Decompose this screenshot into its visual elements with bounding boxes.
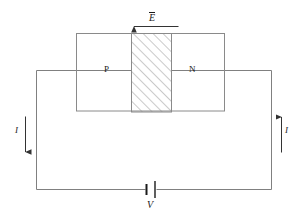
depletion-region-hatched xyxy=(132,34,172,113)
electric-field-vector-text: E xyxy=(149,12,155,23)
current-right-label: I xyxy=(285,126,288,135)
figure-canvas: P N E I I V xyxy=(0,0,298,216)
p-region-label: P xyxy=(104,65,109,74)
electric-field-label: E xyxy=(149,12,155,23)
voltage-source-label: V xyxy=(147,200,153,210)
battery-symbol xyxy=(147,181,156,198)
current-left-label: I xyxy=(15,126,18,135)
diode-body xyxy=(77,34,225,113)
circuit-diagram-svg xyxy=(0,0,298,216)
current-arrows xyxy=(26,117,282,153)
n-region-label: N xyxy=(189,65,196,74)
